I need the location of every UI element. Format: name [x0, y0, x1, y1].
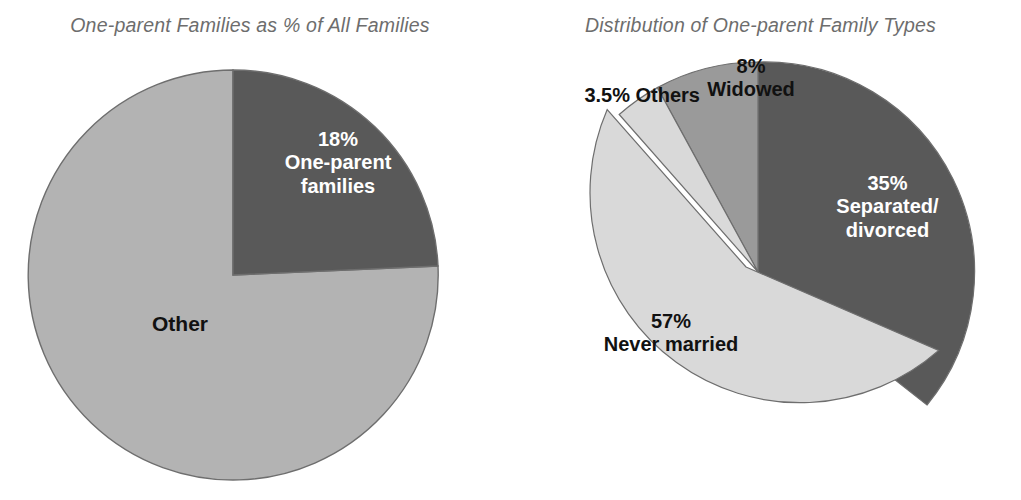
pie-label-never-pct: 57%: [546, 310, 796, 333]
pie-label-separated-pct: 35%: [800, 172, 975, 195]
pie-label-widowed-name: Widowed: [696, 78, 806, 101]
pie-label-others-text: 3.5% Others: [500, 84, 700, 107]
pie-label-separated-divorced: 35% Separated/ divorced: [800, 172, 975, 242]
pie-label-widowed-pct: 8%: [696, 55, 806, 78]
pie-label-one-parent-pct: 18%: [238, 128, 438, 151]
pie-label-other-name: Other: [110, 312, 250, 337]
pie-label-one-parent-line1: One-parent: [238, 151, 438, 174]
pie-label-other: Other: [110, 312, 250, 337]
pie-label-never-married: 57% Never married: [546, 310, 796, 357]
pie-label-separated-line1: Separated/: [800, 195, 975, 218]
chart-panel-one-parent-share: One-parent Families as % of All Families…: [0, 0, 500, 500]
pie-label-widowed: 8% Widowed: [696, 55, 806, 102]
pie-label-never-name: Never married: [546, 333, 796, 356]
pie-label-one-parent-line2: families: [238, 175, 438, 198]
pie-label-others: 3.5% Others: [500, 84, 700, 107]
pie-label-separated-line2: divorced: [800, 219, 975, 242]
pie-chart-one-parent-share: [0, 0, 500, 500]
chart-panel-family-types: Distribution of One-parent Family Types …: [500, 0, 1021, 500]
two-pie-figure: One-parent Families as % of All Families…: [0, 0, 1021, 500]
pie-label-one-parent-families: 18% One-parent families: [238, 128, 438, 198]
